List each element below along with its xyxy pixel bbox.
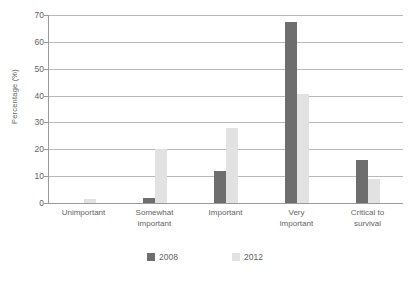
y-tick-label-40: 40 xyxy=(22,91,44,101)
x-axis-label-line: important xyxy=(261,218,332,229)
y-tick-label-50: 50 xyxy=(22,64,44,74)
legend-swatch-2012 xyxy=(232,253,240,261)
bar-2012-somewhat-important[interactable] xyxy=(155,149,167,203)
bar-2012-important[interactable] xyxy=(226,128,238,203)
bar-2008-critical-to-survival[interactable] xyxy=(356,160,368,203)
y-tick-mark-0 xyxy=(44,203,48,204)
y-tick-label-30: 30 xyxy=(22,117,44,127)
legend-label-2008: 2008 xyxy=(159,252,178,262)
bar-group-important xyxy=(190,15,261,203)
legend-item-2012[interactable]: 2012 xyxy=(232,252,263,262)
bar-group-very-important xyxy=(261,15,332,203)
bar-2008-very-important[interactable] xyxy=(285,22,297,203)
y-tick-label-0: 0 xyxy=(22,198,44,208)
bar-2008-somewhat-important[interactable] xyxy=(143,198,155,203)
x-axis-labels: UnimportantSomewhatimportantImportantVer… xyxy=(48,207,403,229)
y-tick-label-20: 20 xyxy=(22,144,44,154)
x-axis-label-line: important xyxy=(119,218,190,229)
x-axis-label-critical-to-survival: Critical tosurvival xyxy=(332,207,403,229)
x-axis-label-line: Very xyxy=(261,207,332,218)
x-axis-label-line: Unimportant xyxy=(48,207,119,218)
legend-item-2008[interactable]: 2008 xyxy=(147,252,178,262)
gridline-0 xyxy=(48,203,403,204)
x-axis-label-line: Critical to xyxy=(332,207,403,218)
x-axis-label-somewhat-important: Somewhatimportant xyxy=(119,207,190,229)
y-tick-label-70: 70 xyxy=(22,10,44,20)
chart-legend: 20082012 xyxy=(0,252,410,262)
x-axis-label-line: survival xyxy=(332,218,403,229)
bar-2008-important[interactable] xyxy=(214,171,226,203)
legend-swatch-2008 xyxy=(147,253,155,261)
bar-2012-very-important[interactable] xyxy=(297,94,309,203)
bar-chart: Percentage (%) 706050403020100 Unimporta… xyxy=(0,0,410,282)
bar-group-somewhat-important xyxy=(119,15,190,203)
x-axis-label-line: Important xyxy=(190,207,261,218)
legend-label-2012: 2012 xyxy=(244,252,263,262)
bar-2012-unimportant[interactable] xyxy=(84,199,96,203)
bar-group-critical-to-survival xyxy=(332,15,403,203)
x-axis-label-unimportant: Unimportant xyxy=(48,207,119,229)
bar-2012-critical-to-survival[interactable] xyxy=(368,179,380,203)
bars-layer xyxy=(48,15,403,203)
y-tick-label-60: 60 xyxy=(22,37,44,47)
x-axis-label-very-important: Veryimportant xyxy=(261,207,332,229)
x-axis-label-line: Somewhat xyxy=(119,207,190,218)
y-axis-title: Percentage (%) xyxy=(10,57,19,137)
x-axis-label-important: Important xyxy=(190,207,261,229)
bar-group-unimportant xyxy=(48,15,119,203)
y-tick-label-10: 10 xyxy=(22,171,44,181)
